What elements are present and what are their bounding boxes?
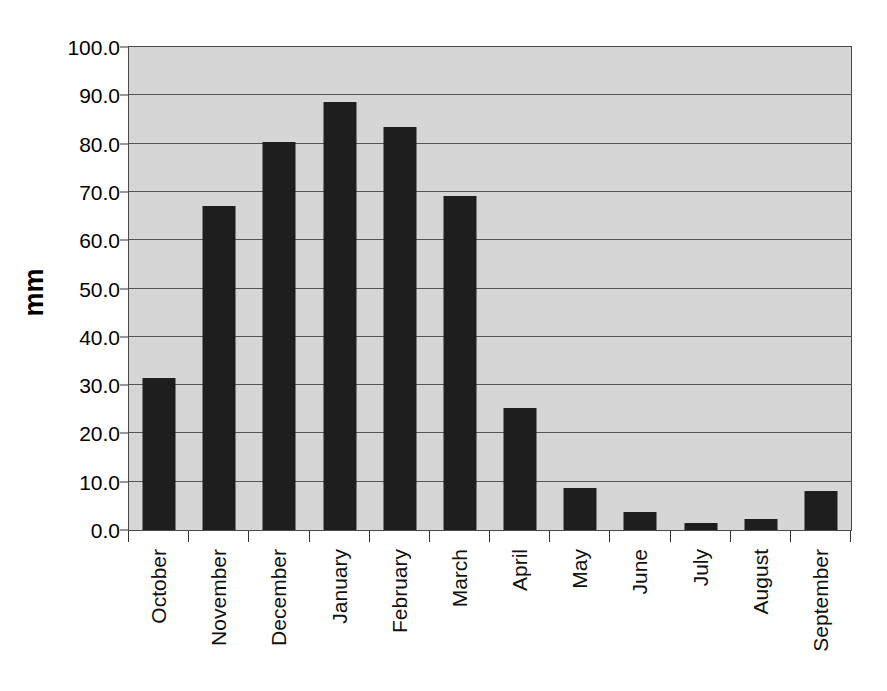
y-axis-tick-mark: [120, 530, 128, 531]
x-axis-tick-label: July: [689, 549, 710, 586]
x-axis-tick-label: October: [148, 549, 169, 624]
bar-slot: [430, 47, 490, 530]
x-label-slot: October: [128, 545, 188, 685]
x-axis-tick-label: August: [749, 549, 770, 614]
x-axis-tick-label: January: [328, 549, 349, 624]
x-axis-tick-mark: [248, 531, 249, 542]
x-label-slot: February: [369, 545, 429, 685]
x-axis-tick-label: November: [208, 549, 229, 646]
x-axis-tick-mark: [188, 531, 189, 542]
bar-slot: [189, 47, 249, 530]
rainfall-bar-chart: mm 100.090.080.070.060.050.040.030.020.0…: [0, 0, 887, 691]
bar-slot: [671, 47, 731, 530]
x-axis-tick-label: February: [388, 549, 409, 633]
x-axis-tick-mark: [609, 531, 610, 542]
x-axis-tick-label: September: [809, 549, 830, 652]
x-axis-tick-mark: [128, 531, 129, 542]
x-axis-tick-mark: [850, 531, 851, 542]
y-axis-tick-mark: [120, 336, 128, 337]
bar[interactable]: [504, 408, 537, 530]
bar[interactable]: [383, 127, 416, 530]
bar[interactable]: [684, 523, 717, 530]
y-axis-tick-mark: [120, 288, 128, 289]
x-axis-tick-labels: OctoberNovemberDecemberJanuaryFebruaryMa…: [128, 545, 852, 685]
bar-slot: [791, 47, 851, 530]
x-axis-tick-mark: [730, 531, 731, 542]
bar-slot: [490, 47, 550, 530]
x-label-slot: August: [730, 545, 790, 685]
y-axis-tick-mark: [120, 433, 128, 434]
y-axis-tick-mark: [120, 95, 128, 96]
x-label-slot: April: [489, 545, 549, 685]
x-label-slot: June: [609, 545, 669, 685]
y-axis-tick-mark: [120, 385, 128, 386]
y-axis-tick-mark: [120, 143, 128, 144]
bar[interactable]: [263, 142, 296, 530]
x-axis-tick-label: December: [268, 549, 289, 646]
x-axis-tick-label: April: [509, 549, 530, 591]
x-axis-tick-label: June: [629, 549, 650, 595]
y-axis-tick-mark: [120, 47, 128, 48]
x-label-slot: May: [549, 545, 609, 685]
bar-slot: [550, 47, 610, 530]
x-label-slot: September: [790, 545, 850, 685]
y-axis-tick-mark: [120, 240, 128, 241]
bar-slot: [249, 47, 309, 530]
bar[interactable]: [564, 488, 597, 531]
x-axis-tick-mark: [549, 531, 550, 542]
bar-slot: [731, 47, 791, 530]
x-axis-tick-marks: [128, 531, 852, 543]
y-axis-tick-marks: [0, 46, 128, 531]
x-axis-tick-mark: [369, 531, 370, 542]
y-axis-tick-mark: [120, 481, 128, 482]
x-axis-tick-mark: [309, 531, 310, 542]
x-axis-tick-mark: [489, 531, 490, 542]
x-label-slot: December: [248, 545, 308, 685]
bar[interactable]: [203, 206, 236, 530]
bar[interactable]: [744, 519, 777, 530]
bar[interactable]: [804, 491, 837, 530]
x-axis-tick-label: May: [569, 549, 590, 589]
bar-slot: [610, 47, 670, 530]
bar[interactable]: [624, 512, 657, 530]
bar-slot: [370, 47, 430, 530]
bar[interactable]: [323, 102, 356, 530]
bar[interactable]: [443, 196, 476, 530]
x-axis-tick-mark: [429, 531, 430, 542]
bar-slot: [310, 47, 370, 530]
x-label-slot: January: [309, 545, 369, 685]
y-axis-tick-mark: [120, 191, 128, 192]
bar-slot: [129, 47, 189, 530]
x-label-slot: March: [429, 545, 489, 685]
x-axis-tick-mark: [670, 531, 671, 542]
x-axis-tick-mark: [790, 531, 791, 542]
bars-layer: [129, 47, 851, 530]
x-label-slot: July: [670, 545, 730, 685]
x-label-slot: November: [188, 545, 248, 685]
bar[interactable]: [143, 378, 176, 530]
x-axis-tick-label: March: [448, 549, 469, 607]
